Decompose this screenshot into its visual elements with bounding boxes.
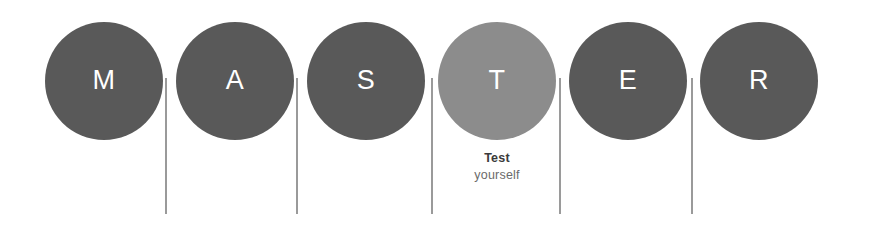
step-letter-t: T (489, 67, 506, 94)
divider-2 (296, 78, 298, 214)
step-s[interactable]: S (298, 0, 434, 233)
step-t[interactable]: T Test yourself (429, 0, 565, 233)
step-circle-t[interactable]: T (438, 22, 556, 140)
divider-3 (431, 78, 433, 214)
step-letter-s: S (357, 67, 376, 94)
step-caption-t: Test yourself (429, 150, 565, 184)
step-letter-m: M (93, 67, 116, 94)
step-circle-s[interactable]: S (307, 22, 425, 140)
step-letter-r: R (749, 67, 769, 94)
step-circle-m[interactable]: M (45, 22, 163, 140)
divider-5 (691, 78, 693, 214)
step-circle-a[interactable]: A (176, 22, 294, 140)
step-letter-a: A (226, 67, 245, 94)
step-a[interactable]: A (167, 0, 303, 233)
step-circle-e[interactable]: E (569, 22, 687, 140)
divider-1 (165, 78, 167, 214)
step-letter-e: E (619, 67, 638, 94)
step-m[interactable]: M (36, 0, 172, 233)
step-e[interactable]: E (560, 0, 696, 233)
divider-4 (559, 78, 561, 214)
step-r[interactable]: R (691, 0, 827, 233)
step-caption-title-t: Test (429, 150, 565, 167)
step-circle-r[interactable]: R (700, 22, 818, 140)
step-caption-sub-t: yourself (429, 167, 565, 184)
master-infographic: M A S T Test yourself (0, 0, 871, 233)
